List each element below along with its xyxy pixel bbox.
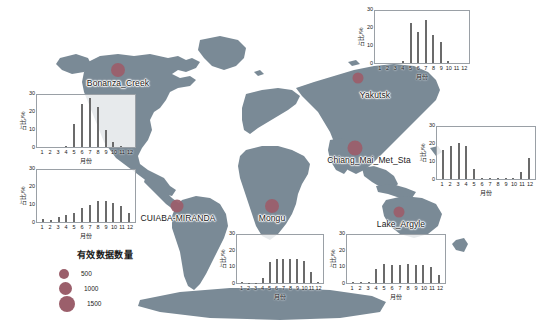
x-tick-label: 3 xyxy=(54,148,62,156)
bar-month-4[interactable] xyxy=(262,278,264,283)
bar-month-9[interactable] xyxy=(415,265,417,283)
bar-month-11[interactable] xyxy=(520,172,522,179)
y-tick-label: 20 xyxy=(29,184,35,190)
bar-month-4[interactable] xyxy=(375,269,377,283)
bar-month-11[interactable] xyxy=(430,267,432,283)
bar-month-12[interactable] xyxy=(317,282,319,283)
y-axis-chiang_mai_met_sta: 0102030占比/% xyxy=(424,126,436,180)
bar-month-10[interactable] xyxy=(112,142,114,147)
bar-month-1[interactable] xyxy=(352,282,354,283)
plot-area-bonanza_creek xyxy=(36,94,136,148)
bar-month-5[interactable] xyxy=(473,169,475,179)
bar-month-4[interactable] xyxy=(402,61,404,63)
x-tick-label: 5 xyxy=(407,64,415,72)
bar-month-9[interactable] xyxy=(105,130,107,147)
bar-month-4[interactable] xyxy=(65,146,67,147)
x-tick-label: 6 xyxy=(78,223,86,231)
bar-month-12[interactable] xyxy=(528,158,530,179)
x-tick-label: 10 xyxy=(110,223,118,231)
station-dot-lake-argyle[interactable] xyxy=(394,207,405,218)
bar-month-1[interactable] xyxy=(241,282,243,283)
y-tick-label: 30 xyxy=(29,166,35,172)
bar-month-11[interactable] xyxy=(120,146,122,147)
bar-slot xyxy=(39,170,47,222)
bar-month-7[interactable] xyxy=(89,98,91,147)
figure-canvas: Bonanza_CreekYakutskChiang_Mai_Met_StaCU… xyxy=(0,0,537,329)
station-dot-cuiaba-miranda[interactable] xyxy=(171,200,184,213)
bar-month-3[interactable] xyxy=(58,217,60,222)
station-dot-mongu[interactable] xyxy=(265,199,279,213)
bar-month-8[interactable] xyxy=(97,107,99,147)
bar-month-1[interactable] xyxy=(442,150,444,179)
bar-month-12[interactable] xyxy=(128,213,130,222)
bar-month-5[interactable] xyxy=(73,213,75,222)
bar-month-12[interactable] xyxy=(438,275,440,283)
y-tick-label: 20 xyxy=(29,109,35,115)
x-tick-label: 11 xyxy=(518,180,526,188)
bar-month-3[interactable] xyxy=(458,143,460,179)
x-axis-label: 月份 xyxy=(36,231,136,240)
station-dot-bonanza-creek[interactable] xyxy=(111,63,125,77)
bar-slot xyxy=(280,235,287,283)
bar-slot xyxy=(462,127,470,179)
y-tick-label: 0 xyxy=(432,177,435,183)
bar-month-10[interactable] xyxy=(512,178,514,179)
bar-month-9[interactable] xyxy=(105,201,107,222)
bar-month-8[interactable] xyxy=(407,264,409,283)
bar-slot xyxy=(372,235,380,283)
bar-month-6[interactable] xyxy=(276,259,278,283)
bar-month-5[interactable] xyxy=(73,124,75,147)
x-tick-label: 9 xyxy=(102,223,110,231)
x-axis-label: 月份 xyxy=(436,188,536,197)
y-axis-lake_argyle: 0102030占比/% xyxy=(334,234,346,284)
bar-month-6[interactable] xyxy=(391,265,393,283)
bar-month-9[interactable] xyxy=(296,259,298,283)
bar-slot xyxy=(404,235,412,283)
x-tick-label: 1 xyxy=(38,223,46,231)
x-axis-lake_argyle: 123456789101112 xyxy=(346,284,446,292)
station-dot-chiang-mai-met-sta[interactable] xyxy=(348,141,363,156)
bar-month-7[interactable] xyxy=(489,178,491,179)
bar-slot xyxy=(452,11,460,63)
bar-month-2[interactable] xyxy=(50,220,52,222)
bar-month-10[interactable] xyxy=(447,61,449,63)
bar-month-2[interactable] xyxy=(450,146,452,179)
bar-slot xyxy=(419,235,427,283)
bar-month-8[interactable] xyxy=(432,35,434,63)
x-tick-label: 2 xyxy=(46,148,54,156)
bar-month-9[interactable] xyxy=(505,178,507,179)
bar-month-8[interactable] xyxy=(497,178,499,179)
bar-slot xyxy=(266,235,273,283)
bar-month-7[interactable] xyxy=(89,205,91,222)
bar-month-7[interactable] xyxy=(425,20,427,63)
bar-month-11[interactable] xyxy=(310,272,312,283)
bar-slot xyxy=(455,127,463,179)
x-tick-label: 8 xyxy=(494,180,502,188)
bar-month-8[interactable] xyxy=(289,259,291,283)
bar-month-6[interactable] xyxy=(81,104,83,147)
bar-month-6[interactable] xyxy=(417,32,419,63)
bar-month-5[interactable] xyxy=(383,264,385,283)
bar-month-6[interactable] xyxy=(81,208,83,222)
bar-month-3[interactable] xyxy=(368,282,370,283)
bar-month-2[interactable] xyxy=(360,282,362,283)
bar-slot xyxy=(109,95,117,147)
bar-month-5[interactable] xyxy=(410,23,412,63)
inset-chart-yakutsk: 0102030占比/%123456789101112月份 xyxy=(352,8,470,80)
bar-month-11[interactable] xyxy=(120,206,122,222)
bar-slot xyxy=(287,235,294,283)
bar-month-8[interactable] xyxy=(97,201,99,222)
bar-month-1[interactable] xyxy=(42,219,44,222)
bar-month-7[interactable] xyxy=(399,265,401,283)
bar-month-4[interactable] xyxy=(65,215,67,222)
x-tick-label: 4 xyxy=(62,223,70,231)
bar-month-10[interactable] xyxy=(112,203,114,222)
bar-month-7[interactable] xyxy=(282,259,284,283)
bar-month-9[interactable] xyxy=(440,42,442,63)
bar-month-6[interactable] xyxy=(481,178,483,179)
bar-month-4[interactable] xyxy=(465,146,467,179)
bar-month-10[interactable] xyxy=(422,265,424,283)
x-tick-label: 8 xyxy=(430,64,438,72)
bar-month-5[interactable] xyxy=(269,262,271,283)
bar-month-10[interactable] xyxy=(303,261,305,283)
